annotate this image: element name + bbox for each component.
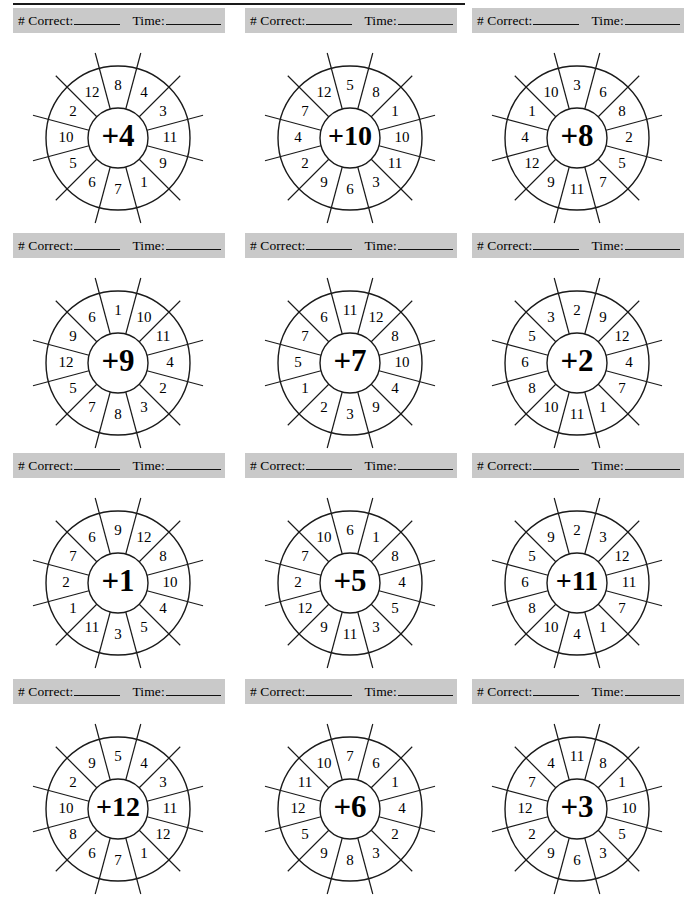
wheel-spoke xyxy=(554,167,569,223)
wheel-segment-number: 11 xyxy=(156,328,170,344)
wheel-segment-number: 5 xyxy=(114,748,122,764)
correct-input[interactable] xyxy=(533,236,579,250)
wheel-center-operand: +12 xyxy=(96,791,140,822)
addition-wheel: +2912471111086532 xyxy=(459,267,686,457)
wheel-segment-number: 2 xyxy=(69,103,77,119)
time-input[interactable] xyxy=(166,682,221,696)
wheel-spoke xyxy=(492,146,548,161)
wheel-segment-number: 6 xyxy=(599,84,607,100)
correct-input[interactable] xyxy=(533,456,579,470)
wheel-segment-number: 9 xyxy=(547,529,555,545)
wheel-spoke xyxy=(492,591,548,606)
wheel-segment-number: 8 xyxy=(618,103,626,119)
correct-input[interactable] xyxy=(74,11,120,25)
wheel-spoke xyxy=(265,115,321,130)
time-label: Time: xyxy=(364,458,396,474)
wheel-segment-number: 12 xyxy=(615,328,630,344)
wheel-center-operand: +3 xyxy=(560,789,593,824)
wheel-segment-number: 5 xyxy=(301,826,309,842)
score-bar: # Correct:Time: xyxy=(245,679,457,704)
correct-input[interactable] xyxy=(74,236,120,250)
time-input[interactable] xyxy=(166,11,221,25)
wheel-segment-number: 6 xyxy=(88,529,96,545)
correct-input[interactable] xyxy=(306,456,352,470)
score-bar: # Correct:Time: xyxy=(13,8,225,33)
wheel-segment-number: 7 xyxy=(301,548,309,564)
correct-input[interactable] xyxy=(533,11,579,25)
correct-input[interactable] xyxy=(306,11,352,25)
wheel-segment-number: 4 xyxy=(166,354,174,370)
wheel-spoke xyxy=(95,838,110,894)
wheel-segment-number: 8 xyxy=(528,600,536,616)
wheel-segment-number: 5 xyxy=(618,155,626,171)
wheel-segment-number: 10 xyxy=(317,529,332,545)
correct-label: # Correct: xyxy=(18,238,73,254)
wheel-center-operand: +4 xyxy=(101,118,134,153)
wheel-spoke xyxy=(327,724,342,780)
wheel-spoke xyxy=(379,591,435,606)
wheel-segment-number: 12 xyxy=(615,548,630,564)
wheel-segment-number: 8 xyxy=(391,548,399,564)
time-input[interactable] xyxy=(625,236,680,250)
wheel-segment-number: 3 xyxy=(547,309,555,325)
time-input[interactable] xyxy=(398,11,453,25)
wheel-segment-number: 10 xyxy=(544,619,559,635)
wheel-spoke xyxy=(492,340,548,355)
wheel-spoke xyxy=(585,612,600,668)
wheel-spoke xyxy=(126,392,141,448)
wheel-segment-number: 1 xyxy=(528,103,536,119)
wheel-segment-number: 12 xyxy=(137,529,152,545)
correct-label: # Correct: xyxy=(250,684,305,700)
time-input[interactable] xyxy=(166,236,221,250)
correct-label: # Correct: xyxy=(18,684,73,700)
wheel-segment-number: 8 xyxy=(114,406,122,422)
wheel-segment-number: 11 xyxy=(85,619,99,635)
wheel-segment-number: 2 xyxy=(301,155,309,171)
wheel-spoke xyxy=(33,817,89,832)
time-input[interactable] xyxy=(398,236,453,250)
wheel-spoke xyxy=(554,498,569,554)
time-input[interactable] xyxy=(398,682,453,696)
wheel-segment-number: 11 xyxy=(163,129,177,145)
correct-input[interactable] xyxy=(74,682,120,696)
time-input[interactable] xyxy=(398,456,453,470)
wheel-segment-number: 5 xyxy=(346,77,354,93)
wheel-spoke xyxy=(327,612,342,668)
wheel-segment-number: 3 xyxy=(140,399,148,415)
wheel-spoke xyxy=(265,146,321,161)
wheel-segment-number: 4 xyxy=(140,84,148,100)
wheel-spoke xyxy=(33,591,89,606)
wheel-segment-number: 11 xyxy=(298,774,312,790)
wheel-segment-number: 3 xyxy=(346,406,354,422)
wheel-segment-number: 7 xyxy=(618,380,626,396)
time-input[interactable] xyxy=(625,11,680,25)
wheel-spoke xyxy=(95,53,110,109)
correct-input[interactable] xyxy=(306,682,352,696)
wheel-spoke xyxy=(358,498,373,554)
correct-label: # Correct: xyxy=(477,13,532,29)
wheel-segment-number: 2 xyxy=(625,129,633,145)
wheel-segment-number: 9 xyxy=(372,399,380,415)
time-label: Time: xyxy=(591,458,623,474)
wheel-segment-number: 11 xyxy=(570,748,584,764)
time-input[interactable] xyxy=(166,456,221,470)
wheel-segment-number: 8 xyxy=(599,755,607,771)
wheel-center-operand: +7 xyxy=(333,343,366,378)
wheel-spoke xyxy=(327,278,342,334)
wheel-spoke xyxy=(358,53,373,109)
wheel-spoke xyxy=(379,560,435,575)
correct-input[interactable] xyxy=(306,236,352,250)
time-label: Time: xyxy=(364,684,396,700)
time-input[interactable] xyxy=(625,682,680,696)
correct-input[interactable] xyxy=(533,682,579,696)
wheel-segment-number: 2 xyxy=(391,826,399,842)
time-input[interactable] xyxy=(625,456,680,470)
wheel-spoke xyxy=(554,724,569,780)
wheel-spoke xyxy=(126,167,141,223)
wheel-segment-number: 1 xyxy=(301,380,309,396)
wheel-segment-number: 12 xyxy=(524,155,539,171)
wheel-segment-number: 5 xyxy=(69,155,77,171)
correct-input[interactable] xyxy=(74,456,120,470)
wheel-spoke xyxy=(95,278,110,334)
wheel-segment-number: 1 xyxy=(114,302,122,318)
